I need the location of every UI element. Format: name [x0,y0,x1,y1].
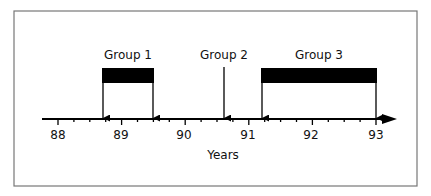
interval-bar [102,68,154,83]
axis-title: Years [206,148,239,162]
tick-label: 93 [368,128,383,142]
tick-label: 92 [303,128,318,142]
tick-label: 91 [240,128,255,142]
interval-bar [261,68,377,83]
group-label: Group 3 [295,48,343,62]
group-label: Group 1 [104,48,152,62]
tick-label: 88 [50,128,65,142]
tick-label: 89 [113,128,128,142]
tick-label: 90 [176,128,191,142]
timeline-diagram: 88 89 90 91 92 93 Years Group 1 Group 2 … [0,0,431,196]
group-label: Group 2 [200,48,248,62]
